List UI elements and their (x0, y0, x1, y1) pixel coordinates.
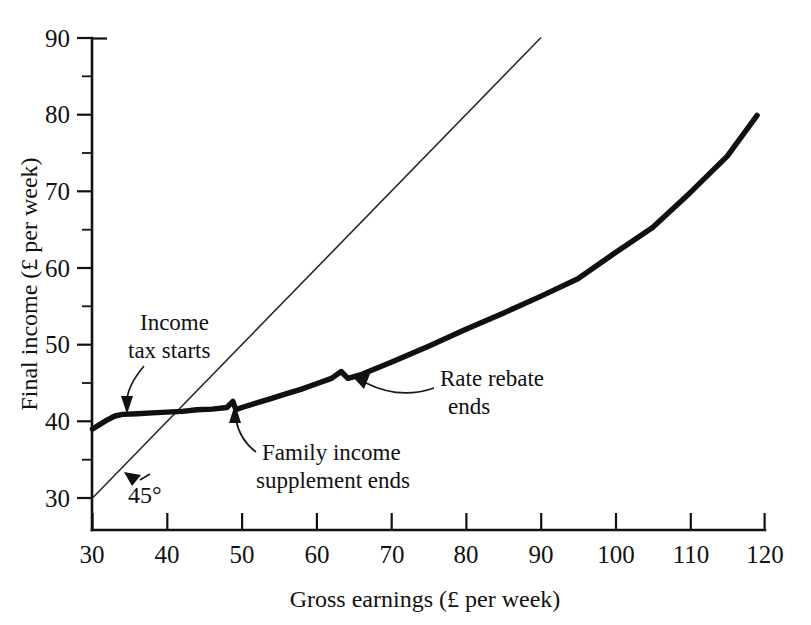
chart-figure: 90 80 70 60 50 40 30 30 40 50 60 (0, 0, 811, 625)
annotation-forty-five-degrees: 45° (124, 472, 162, 508)
y-tick-labels-group: 90 80 70 60 50 40 30 (45, 25, 70, 512)
annotation-family-income-supplement-ends: Family income supplement ends (229, 404, 410, 493)
x-tick-label-110: 110 (673, 541, 710, 568)
x-tick-label-100: 100 (597, 541, 635, 568)
y-tick-label-90: 90 (45, 25, 70, 52)
y-tick-label-60: 60 (45, 255, 70, 282)
y-axis-title: Final income (£ per week) (16, 157, 42, 410)
forty-five-degree-label: 45° (128, 482, 162, 508)
annotation-income-tax-starts: Income tax starts (121, 310, 210, 414)
x-tick-label-120: 120 (746, 541, 784, 568)
rate-rebate-label-line2: ends (448, 394, 490, 419)
rate-rebate-label-line1: Rate rebate (440, 366, 544, 391)
x-ticks-group (93, 513, 765, 530)
final-income-curve (93, 115, 758, 429)
forty-five-degree-line (93, 38, 541, 498)
x-axis-title: Gross earnings (£ per week) (290, 586, 561, 612)
x-tick-label-90: 90 (529, 541, 554, 568)
income-tax-starts-label-line2: tax starts (128, 338, 210, 363)
annotation-rate-rebate-ends: Rate rebate ends (351, 366, 544, 419)
y-tick-label-70: 70 (45, 178, 70, 205)
x-tick-label-60: 60 (305, 541, 330, 568)
axes-group (92, 38, 765, 530)
fis-label-line2: supplement ends (256, 468, 410, 493)
fis-label-line1: Family income (262, 440, 401, 465)
y-tick-label-50: 50 (45, 331, 70, 358)
x-tick-label-30: 30 (80, 541, 105, 568)
y-ticks-group (77, 38, 92, 498)
rate-rebate-leader (366, 383, 434, 393)
x-tick-label-40: 40 (155, 541, 180, 568)
rate-rebate-arrowhead (351, 374, 370, 389)
income-chart-svg: 90 80 70 60 50 40 30 30 40 50 60 (0, 0, 811, 625)
fis-leader (236, 420, 256, 452)
x-tick-label-70: 70 (380, 541, 405, 568)
y-tick-label-30: 30 (45, 485, 70, 512)
forty-five-degree-leader (140, 474, 150, 480)
x-tick-label-80: 80 (454, 541, 479, 568)
income-tax-starts-label-line1: Income (140, 310, 209, 335)
income-tax-starts-leader (127, 366, 144, 400)
x-tick-labels-group: 30 40 50 60 70 80 90 100 110 120 (80, 541, 784, 568)
y-tick-label-40: 40 (45, 408, 70, 435)
x-tick-label-50: 50 (230, 541, 255, 568)
y-tick-label-80: 80 (45, 101, 70, 128)
